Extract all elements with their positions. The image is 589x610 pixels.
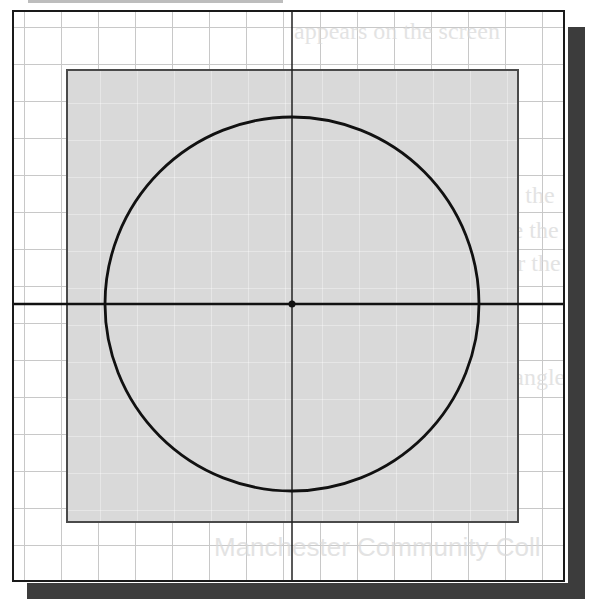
window-shadow-bottom	[27, 583, 585, 599]
window-shadow-right	[568, 27, 585, 597]
drawing-canvas	[14, 12, 565, 582]
drawing-window: appears on the screen window appears wit…	[12, 10, 565, 582]
diagram-stage: appears on the screen window appears wit…	[0, 0, 589, 610]
center-point-icon	[289, 301, 296, 308]
top-strip	[28, 0, 283, 3]
